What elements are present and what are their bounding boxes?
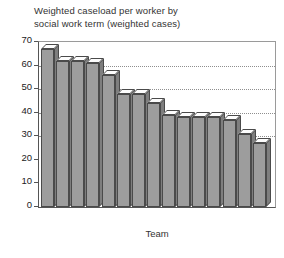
bar (71, 56, 84, 207)
bar (253, 138, 266, 207)
y-axis-tick-label: 20 (21, 152, 32, 163)
plot-area (38, 41, 276, 208)
bar (147, 98, 160, 207)
x-axis-label: Team (38, 228, 276, 239)
bar-front-face (238, 134, 251, 207)
chart-title: Weighted caseload per worker by social w… (34, 4, 264, 30)
bar-front-face (147, 103, 160, 207)
bar-front-face (102, 75, 115, 207)
bar-front-face (71, 61, 84, 207)
bar (102, 70, 115, 207)
bar-front-face (41, 49, 54, 207)
bars-layer (39, 42, 275, 207)
bar (162, 110, 175, 207)
bar (223, 115, 236, 207)
bar-front-face (117, 94, 130, 207)
y-axis: 706050403020100 (0, 41, 38, 208)
bar-front-face (253, 143, 266, 207)
bar (177, 112, 190, 207)
y-axis-tick-label: 70 (21, 34, 32, 45)
bar-side-face (266, 138, 271, 207)
bar (207, 112, 220, 207)
bar (238, 129, 251, 207)
bar-front-face (207, 117, 220, 207)
y-axis-tick-label: 10 (21, 175, 32, 186)
bar (86, 58, 99, 207)
bar-front-face (192, 117, 205, 207)
bar-front-face (86, 63, 99, 207)
bar-front-face (177, 117, 190, 207)
bar (192, 112, 205, 207)
bar-front-face (223, 120, 236, 207)
y-axis-tick-label: 50 (21, 81, 32, 92)
y-axis-tick-label: 40 (21, 105, 32, 116)
bar (117, 89, 130, 207)
y-axis-tick-label: 0 (27, 199, 32, 210)
bar (41, 44, 54, 207)
bar-front-face (56, 61, 69, 207)
y-axis-tick-label: 60 (21, 58, 32, 69)
bar (56, 56, 69, 207)
y-axis-tick-label: 30 (21, 128, 32, 139)
bar-front-face (132, 94, 145, 207)
bar (132, 89, 145, 207)
bar-front-face (162, 115, 175, 207)
bar-chart: Weighted caseload per worker by social w… (0, 0, 284, 258)
